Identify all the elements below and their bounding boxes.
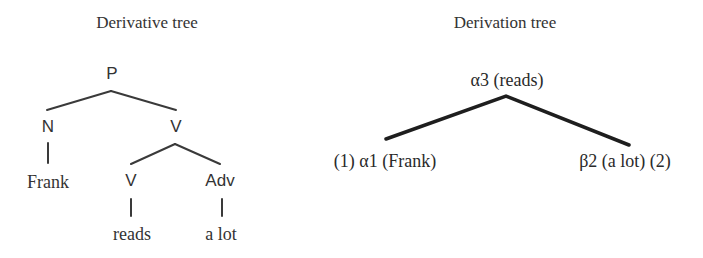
derivation-tree-title: Derivation tree (454, 14, 556, 31)
node-alpha1-frank: (1) α1 (Frank) (334, 152, 436, 170)
edge-p-n (47, 91, 111, 110)
node-n: N (42, 118, 54, 135)
derivative-tree-title: Derivative tree (96, 14, 197, 31)
leaf-a-lot: a lot (205, 225, 237, 243)
edge-p-v (111, 91, 176, 110)
derivation-tree-edges (386, 96, 629, 145)
tree-comparison-diagram: Derivative tree P N V Frank V Adv reads … (0, 0, 703, 258)
node-v: V (125, 172, 136, 189)
edge-v-adv (175, 144, 220, 164)
node-v-phrase: V (170, 118, 181, 135)
tree-edges (0, 0, 703, 258)
leaf-reads: reads (113, 225, 151, 243)
edge-v-v (131, 144, 175, 164)
node-beta2-a-lot: β2 (a lot) (2) (579, 152, 671, 170)
edge-alpha3-branches (386, 96, 629, 145)
node-adv: Adv (205, 172, 234, 189)
derivative-tree-edges (47, 91, 222, 216)
node-alpha3-reads: α3 (reads) (471, 71, 544, 89)
node-p: P (106, 65, 117, 82)
leaf-frank: Frank (27, 173, 69, 191)
